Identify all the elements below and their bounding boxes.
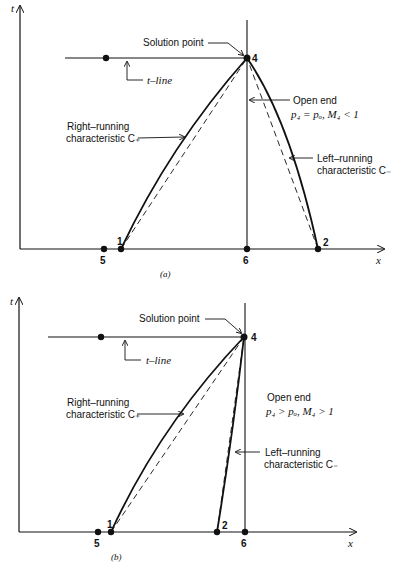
open-end-title: Open end: [267, 392, 311, 403]
point-6-label: 6: [243, 255, 249, 266]
point-5: [101, 246, 107, 252]
right-running-leader: [138, 137, 184, 138]
point-1-label: 1: [117, 236, 123, 247]
caption-b: (b): [111, 552, 122, 562]
point-2: [315, 246, 321, 252]
solution-point-leader: [208, 43, 243, 55]
t-line-leader: [125, 341, 141, 360]
x-axis-label: x: [375, 254, 381, 266]
solution-point-label: Solution point: [139, 313, 200, 324]
t-line-leader: [127, 62, 143, 80]
point-6-label: 6: [241, 538, 247, 549]
point-6: [244, 246, 250, 252]
panel-b: t x t–line Solution point 4 5 1 2 6 Open…: [10, 295, 356, 562]
right-running-dashed: [121, 58, 247, 249]
x-axis-label: x: [347, 537, 353, 549]
left-running-label-line2: characteristic C₋: [317, 165, 391, 176]
right-running-dashed: [111, 337, 244, 532]
open-end-condition: p₄ > pₒ, M₄ > 1: [265, 405, 334, 417]
point-2-label: 2: [222, 520, 228, 531]
point-5: [95, 529, 101, 535]
point-5-label: 5: [94, 538, 100, 549]
point-4: [244, 55, 251, 62]
point-6: [242, 529, 248, 535]
left-running-characteristic: [217, 337, 244, 532]
t-axis-label: t: [11, 2, 15, 14]
left-running-label-line1: Left–running: [265, 447, 321, 458]
caption-a: (a): [160, 269, 171, 279]
t-line-label: t–line: [146, 354, 171, 366]
open-end-title: Open end: [293, 95, 337, 106]
point-2: [214, 529, 220, 535]
point-2-label: 2: [323, 237, 329, 248]
t-line-point: [98, 334, 104, 340]
right-running-label-line1: Right–running: [67, 397, 129, 408]
left-running-label-line2: characteristic C₋: [264, 459, 338, 470]
point-4: [241, 334, 248, 341]
right-running-label-line1: Right–running: [67, 121, 129, 132]
left-running-label-line1: Left–running: [317, 153, 373, 164]
right-running-label-line2: characteristic C₊: [66, 133, 140, 144]
point-4-label: 4: [251, 332, 257, 343]
solution-point-leader: [205, 319, 241, 333]
left-running-dashed: [247, 58, 318, 249]
characteristics-diagram: t x t–line Solution point 4 5 1 6 2 Open…: [0, 0, 393, 569]
t-axis-label: t: [10, 295, 14, 307]
solution-point-label: Solution point: [143, 37, 204, 48]
right-running-label-line2: characteristic C₊: [66, 409, 140, 420]
panel-a: t x t–line Solution point 4 5 1 6 2 Open…: [11, 2, 391, 279]
t-line-point: [103, 55, 109, 61]
point-1-label: 1: [107, 519, 113, 530]
t-line-label: t–line: [147, 74, 172, 86]
open-end-condition: p₄ = pₒ, M₄ < 1: [290, 108, 359, 120]
point-4-label: 4: [252, 53, 258, 64]
point-5-label: 5: [100, 255, 106, 266]
